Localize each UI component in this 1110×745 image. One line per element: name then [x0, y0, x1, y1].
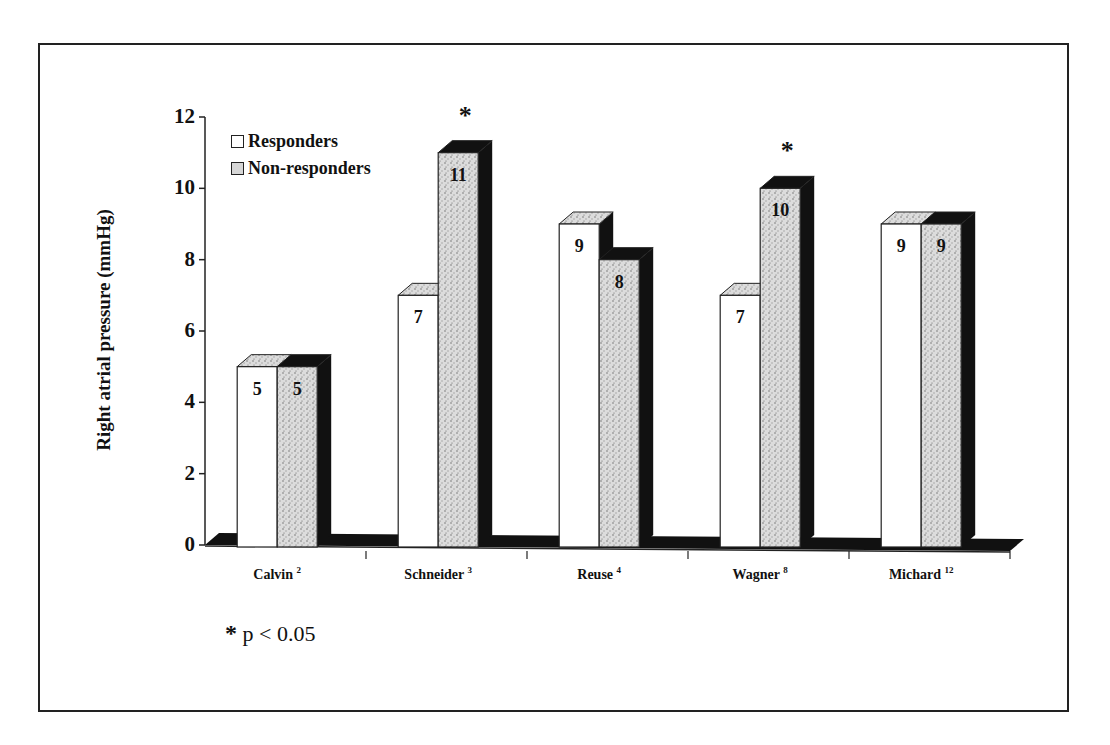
bar-value-label: 7: [414, 307, 423, 328]
y-axis-label: Right atrial pressure (mmHg): [93, 209, 115, 451]
x-category-label: Michard 12: [889, 565, 954, 583]
footnote: * p < 0.05: [225, 620, 315, 647]
y-tick-label: 2: [155, 461, 195, 486]
legend-label: Non-responders: [248, 158, 371, 179]
legend-label: Responders: [248, 131, 338, 152]
y-tick-label: 8: [155, 247, 195, 272]
bar-value-label: 9: [575, 236, 584, 257]
bars: [237, 141, 975, 547]
bar-value-label: 9: [897, 236, 906, 257]
legend-swatch-stippled: [231, 162, 244, 175]
x-category-label: Calvin 2: [253, 565, 301, 583]
legend-item-responders: Responders: [231, 128, 371, 155]
y-tick-label: 4: [155, 389, 195, 414]
bar-value-label: 5: [253, 379, 262, 400]
x-category-label: Wagner 8: [733, 565, 788, 583]
y-tick-label: 0: [155, 532, 195, 557]
y-tick-label: 6: [155, 318, 195, 343]
y-axis: [199, 117, 205, 545]
y-tick-label: 10: [155, 175, 195, 200]
legend: Responders Non-responders: [231, 128, 371, 182]
bar-value-label: 10: [771, 200, 789, 221]
footnote-star: *: [225, 620, 237, 646]
x-category-label: Schneider 3: [404, 565, 472, 583]
significance-star: *: [459, 101, 472, 131]
significance-star: *: [781, 136, 794, 166]
legend-item-non-responders: Non-responders: [231, 155, 371, 182]
y-tick-label: 12: [155, 104, 195, 129]
legend-swatch-white: [231, 135, 244, 148]
bar-value-label: 5: [293, 379, 302, 400]
bar-value-label: 8: [615, 272, 624, 293]
bar-value-label: 7: [736, 307, 745, 328]
x-category-label: Reuse 4: [577, 565, 621, 583]
bar-value-label: 9: [937, 236, 946, 257]
footnote-text: p < 0.05: [243, 621, 316, 646]
bar-value-label: 11: [450, 165, 467, 186]
